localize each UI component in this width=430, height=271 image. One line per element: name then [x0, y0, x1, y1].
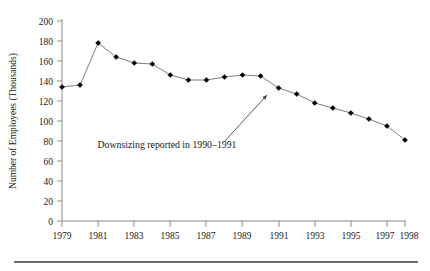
series-markers-employees [59, 40, 407, 142]
data-point [294, 91, 299, 96]
x-tick-label-1985: 1985 [161, 231, 180, 241]
y-tick-label-20: 20 [44, 197, 54, 207]
data-point [222, 74, 227, 79]
data-point [186, 77, 191, 82]
x-axis-ticks: 1979 1981 1983 1985 1987 1989 1991 1993 … [53, 221, 419, 241]
y-tick-label-80: 80 [44, 137, 54, 147]
data-point [59, 84, 64, 89]
x-tick-label-1997: 1997 [376, 231, 395, 241]
x-tick-label-1987: 1987 [197, 231, 216, 241]
data-point [312, 100, 317, 105]
x-tick-label-1981: 1981 [89, 231, 108, 241]
x-tick-label-1983: 1983 [125, 231, 144, 241]
annotation-arrow [224, 95, 267, 142]
annotation-label: Downsizing reported in 1990–1991 [97, 139, 236, 150]
y-tick-label-120: 120 [39, 97, 54, 107]
y-axis-title: Number of Employees (Thousands) [8, 53, 19, 189]
data-point [204, 77, 209, 82]
y-tick-label-60: 60 [44, 157, 54, 167]
data-point [366, 116, 371, 121]
data-point [240, 72, 245, 77]
data-point [276, 85, 281, 90]
series-line-employees [62, 43, 405, 140]
x-tick-label-1989: 1989 [233, 231, 252, 241]
annotation-callout: Downsizing reported in 1990–1991 [97, 95, 267, 150]
y-tick-label-0: 0 [48, 217, 53, 227]
x-tick-label-1979: 1979 [53, 231, 72, 241]
data-point [77, 82, 82, 87]
y-tick-label-200: 200 [39, 17, 54, 27]
y-tick-label-140: 140 [39, 77, 54, 87]
data-point [132, 60, 137, 65]
data-point [168, 72, 173, 77]
y-axis-ticks: 200 180 160 140 120 100 80 60 40 20 0 [39, 17, 62, 227]
y-tick-label-40: 40 [44, 177, 54, 187]
data-point [330, 105, 335, 110]
y-tick-label-100: 100 [39, 117, 54, 127]
x-tick-label-1995: 1995 [342, 231, 361, 241]
y-tick-label-180: 180 [39, 37, 54, 47]
x-tick-label-1998: 1998 [400, 231, 419, 241]
line-chart-figure: Number of Employees (Thousands) 200 180 … [0, 0, 430, 271]
data-point [150, 61, 155, 66]
data-point [348, 110, 353, 115]
data-point [258, 73, 263, 78]
y-tick-label-160: 160 [39, 57, 54, 67]
x-tick-label-1993: 1993 [306, 231, 325, 241]
x-tick-label-1991: 1991 [270, 231, 289, 241]
